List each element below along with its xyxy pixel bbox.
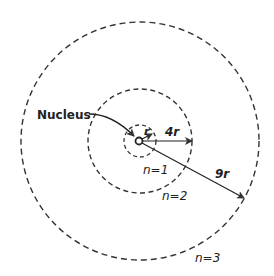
radius-label-9r: 9r — [215, 167, 230, 181]
orbit-label-n3: n=3 — [195, 251, 220, 265]
nucleus-pointer-arrow — [89, 114, 134, 136]
nucleus-label: Nucleus — [37, 108, 91, 122]
orbit-label-n2: n=2 — [162, 189, 187, 203]
radius-label-4r: 4r — [164, 125, 180, 139]
bohr-orbit-diagram: Nucleus r 4r 9r n=1 n=2 n=3 — [0, 0, 274, 276]
radius-label-r: r — [144, 125, 150, 138]
nucleus-dot — [136, 138, 143, 145]
orbit-label-n1: n=1 — [143, 163, 168, 177]
